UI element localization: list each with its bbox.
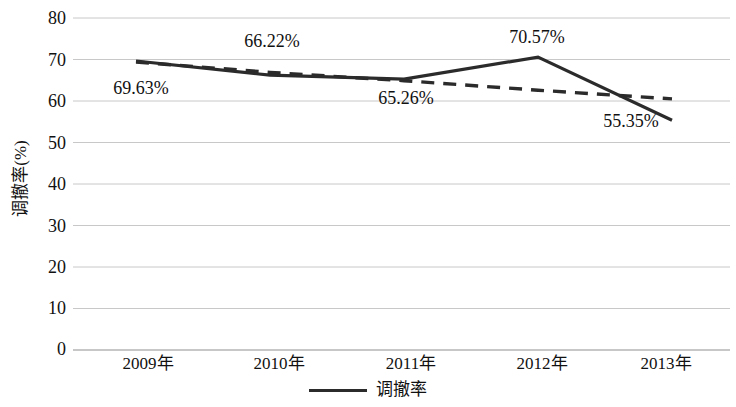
legend-label-diaochelv: 调撤率 [376, 381, 427, 399]
x-axis-ticks: 2009年 2010年 2011年 2012年 2013年 [0, 0, 736, 407]
x-tick-2010: 2010年 [224, 354, 334, 374]
line-chart: 调撤率(%) 80 70 60 50 40 30 20 10 0 69.63% … [0, 0, 736, 407]
chart-legend: 调撤率 [0, 381, 736, 399]
x-tick-2013: 2013年 [611, 354, 721, 374]
x-tick-2009: 2009年 [93, 354, 203, 374]
legend-line-marker [309, 389, 367, 392]
x-tick-2012: 2012年 [487, 354, 597, 374]
x-tick-2011: 2011年 [356, 354, 466, 374]
